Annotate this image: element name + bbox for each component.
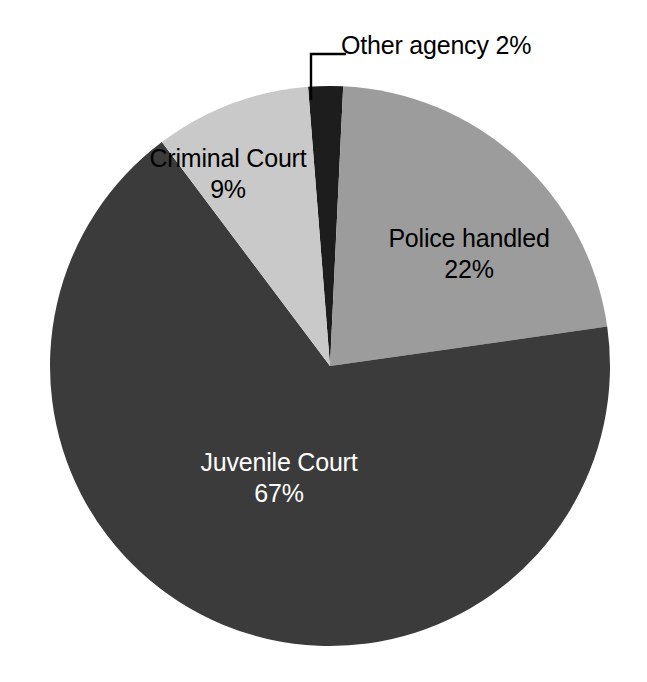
pie-chart-figure: Other agency 2% Police handled 22% Crimi…: [0, 0, 647, 682]
slice-label-juvenile-court-value: 67%: [168, 478, 390, 509]
slice-label-juvenile-court-name: Juvenile Court: [168, 447, 390, 478]
slice-label-criminal-court: Criminal Court 9%: [120, 143, 336, 204]
slice-label-criminal-court-value: 9%: [120, 174, 336, 205]
slice-label-police-handled-name: Police handled: [369, 223, 569, 254]
slice-label-police-handled-value: 22%: [369, 254, 569, 285]
slice-label-police-handled: Police handled 22%: [369, 223, 569, 284]
slice-label-juvenile-court: Juvenile Court 67%: [168, 447, 390, 508]
pie-chart-canvas: [0, 0, 647, 682]
slice-label-criminal-court-name: Criminal Court: [120, 143, 336, 174]
slice-label-other-agency: Other agency 2%: [341, 31, 531, 60]
